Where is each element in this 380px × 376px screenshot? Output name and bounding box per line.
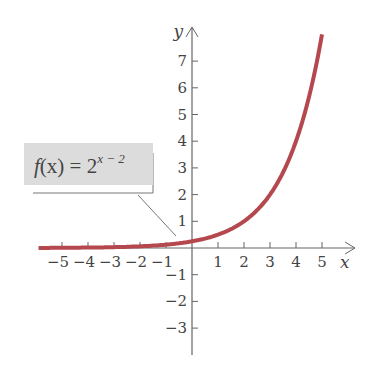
- y-tick-label: 5: [177, 106, 187, 124]
- x-tick-label: 4: [291, 253, 301, 271]
- y-tick-label: −2: [165, 292, 187, 310]
- x-tick-label: −2: [125, 253, 147, 271]
- label-leader-line: [138, 195, 176, 236]
- y-tick-label: 3: [177, 159, 187, 177]
- y-tick-label: 2: [177, 186, 187, 204]
- function-base: = 2: [64, 154, 97, 178]
- x-tick-label: 5: [317, 253, 327, 271]
- x-tick-label: 3: [265, 253, 275, 271]
- x-axis-label: x: [340, 252, 350, 272]
- y-tick-label: 4: [177, 132, 187, 150]
- function-exponent: x − 2: [97, 151, 125, 166]
- y-axis-label: y: [172, 21, 183, 41]
- plot-area: −5−4−3−2−112345−3−2−11234567xy: [0, 0, 380, 376]
- x-tick-label: −3: [99, 253, 121, 271]
- y-tick-label: 1: [177, 212, 187, 230]
- y-tick-label: 7: [177, 52, 187, 70]
- y-tick-label: −3: [165, 319, 187, 337]
- x-tick-label: 1: [213, 253, 223, 271]
- x-tick-label: 2: [239, 253, 249, 271]
- function-graph: −5−4−3−2−112345−3−2−11234567xy f(x) = 2x…: [0, 0, 380, 376]
- function-label-box: f(x) = 2x − 2: [24, 143, 153, 185]
- y-tick-label: 6: [177, 79, 187, 97]
- function-argument: (x): [40, 154, 65, 178]
- y-tick-label: −1: [165, 266, 187, 284]
- x-tick-label: −5: [47, 253, 69, 271]
- x-tick-label: −4: [73, 253, 95, 271]
